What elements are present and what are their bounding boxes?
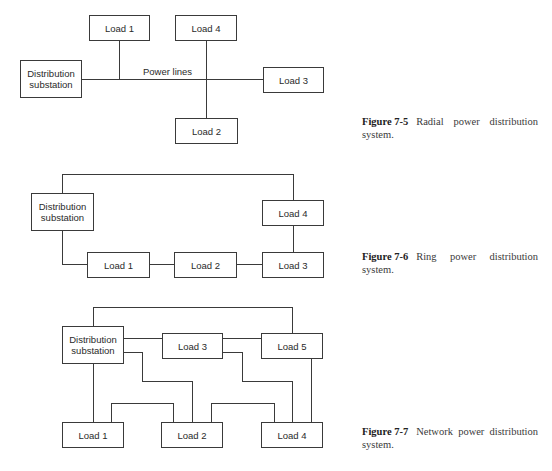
distribution-substation-box: Distribution substation — [20, 60, 82, 98]
net-line-load1-load2-b — [111, 403, 173, 404]
caption-text-line2: system. — [362, 438, 538, 451]
net-line-top — [93, 307, 292, 308]
net-line-load2-load4-b — [211, 403, 274, 404]
node-label: Load 4 — [278, 208, 307, 219]
node-label: Load 2 — [177, 430, 206, 441]
caption-text: Network power distribution — [416, 425, 538, 438]
load-2-box: Load 2 — [175, 118, 238, 144]
node-label: Load 1 — [104, 260, 133, 271]
net-line-load5-up — [292, 307, 293, 333]
net-line-substation-load2-a — [124, 352, 142, 353]
node-label: Load 3 — [178, 341, 207, 352]
ring-line-load1-load2 — [150, 264, 174, 265]
caption-text-line2: system. — [362, 263, 538, 276]
load-1-box: Load 1 — [62, 422, 124, 448]
ring-line-load4-load3 — [293, 226, 294, 252]
net-line-load1-load2-c — [173, 403, 174, 422]
node-label: Load 1 — [105, 23, 134, 34]
ring-line-to-load1 — [62, 264, 87, 265]
ring-line-load2-load3 — [237, 264, 262, 265]
net-line-substation-up — [93, 307, 94, 326]
caption-text: Ring power distribution — [416, 250, 538, 263]
figure-7-7-caption: Figure 7-7 Network power distribution sy… — [362, 425, 538, 451]
net-line-load3-load4-d — [292, 381, 293, 422]
net-line-load2-load4-c — [274, 403, 275, 422]
net-line-load3-load5 — [223, 338, 261, 339]
node-label: Load 3 — [278, 260, 307, 271]
net-line-load3-load4-a — [223, 352, 242, 353]
node-label: Load 1 — [78, 430, 107, 441]
net-line-substation-load2-d — [192, 381, 193, 422]
power-line-load1 — [119, 41, 120, 79]
load-3-box: Load 3 — [162, 333, 223, 359]
load-4-box: Load 4 — [262, 200, 324, 226]
net-line-substation-load2-b — [142, 352, 143, 381]
ring-line-top — [62, 174, 293, 175]
node-label: Load 4 — [191, 23, 220, 34]
load-3-box: Load 3 — [262, 252, 324, 278]
figure-7-6-caption: Figure 7-6 Ring power distribution syste… — [362, 250, 538, 276]
node-label: Load 2 — [191, 260, 220, 271]
node-label: Distribution substation — [63, 334, 123, 356]
caption-text-line2: system. — [362, 128, 538, 141]
ring-line-substation-down — [62, 231, 63, 264]
node-label: Load 4 — [277, 430, 306, 441]
net-line-load5-load4 — [311, 358, 312, 422]
load-1-box: Load 1 — [87, 252, 150, 278]
node-label: Load 2 — [192, 126, 221, 137]
load-4-box: Load 4 — [175, 15, 237, 41]
node-label: Distribution substation — [32, 201, 93, 223]
caption-text: Radial power distribution — [416, 115, 538, 128]
load-2-box: Load 2 — [174, 252, 237, 278]
power-lines-label: Power lines — [143, 66, 192, 77]
ring-line-substation-up — [62, 174, 63, 193]
distribution-substation-box: Distribution substation — [62, 326, 124, 364]
node-label: Distribution substation — [21, 68, 81, 90]
net-line-load1-load2-a — [111, 403, 112, 422]
power-line-load4-load2 — [206, 41, 207, 118]
net-line-substation-load2-c — [142, 381, 192, 382]
ring-line-load4-up — [293, 174, 294, 200]
figure-7-5-caption: Figure 7-5 Radial power distribution sys… — [362, 115, 538, 141]
figure-number: Figure 7-6 — [362, 250, 408, 263]
figure-number: Figure 7-7 — [362, 425, 408, 438]
node-label: Load 5 — [277, 341, 306, 352]
distribution-substation-box: Distribution substation — [31, 193, 94, 231]
net-line-load2-load4-a — [211, 403, 212, 422]
load-5-box: Load 5 — [261, 333, 323, 359]
net-line-substation-load3 — [124, 338, 162, 339]
net-line-substation-load1 — [93, 364, 94, 422]
power-line-main — [82, 79, 263, 80]
net-line-load3-load4-c — [242, 381, 292, 382]
load-4-box: Load 4 — [261, 422, 323, 448]
figure-number: Figure 7-5 — [362, 115, 408, 128]
load-3-box: Load 3 — [263, 67, 324, 93]
load-1-box: Load 1 — [89, 15, 150, 41]
net-line-load3-load4-b — [242, 352, 243, 381]
node-label: Load 3 — [279, 75, 308, 86]
load-2-box: Load 2 — [161, 422, 223, 448]
